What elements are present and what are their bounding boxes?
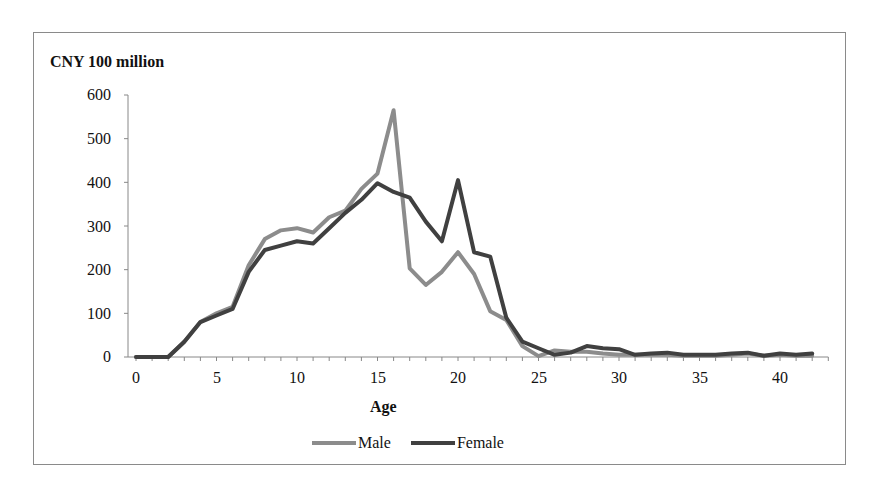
legend-label-male: Male bbox=[358, 434, 391, 452]
axes bbox=[124, 95, 828, 361]
legend-item-female: Female bbox=[411, 434, 504, 452]
series-lines bbox=[136, 110, 812, 357]
plot-area bbox=[0, 0, 876, 491]
legend: Male Female bbox=[312, 434, 524, 452]
legend-swatch-male bbox=[312, 441, 356, 445]
legend-label-female: Female bbox=[457, 434, 504, 452]
x-axis-title: Age bbox=[370, 398, 397, 416]
series-male bbox=[136, 110, 812, 357]
series-female bbox=[136, 180, 812, 357]
legend-item-male: Male bbox=[312, 434, 391, 452]
legend-swatch-female bbox=[411, 441, 455, 445]
